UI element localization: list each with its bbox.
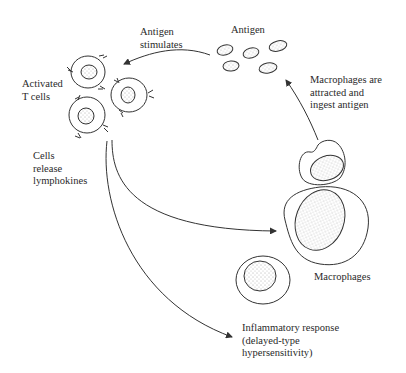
macrophages-label: Macrophages xyxy=(314,271,371,284)
t-cells xyxy=(67,55,154,138)
cells-release-lymphokines-label: Cells release lymphokines xyxy=(33,150,87,188)
macrophages-attracted-label: Macrophages are attracted and ingest ant… xyxy=(310,74,382,112)
activated-t-cells-label: Activated T cells xyxy=(22,78,63,103)
arrows xyxy=(106,50,318,337)
antigen-particles xyxy=(216,39,288,75)
inflammatory-response-label: Inflammatory response (delayed-type hype… xyxy=(242,322,339,360)
immune-response-diagram: Antigen Antigen stimulates Activated T c… xyxy=(0,0,406,373)
antigen-label: Antigen xyxy=(231,24,265,37)
antigen-stimulates-label: Antigen stimulates xyxy=(140,26,183,51)
macrophage-large xyxy=(284,183,368,265)
macrophage-small xyxy=(236,256,290,304)
macrophage-ingesting xyxy=(299,140,347,185)
